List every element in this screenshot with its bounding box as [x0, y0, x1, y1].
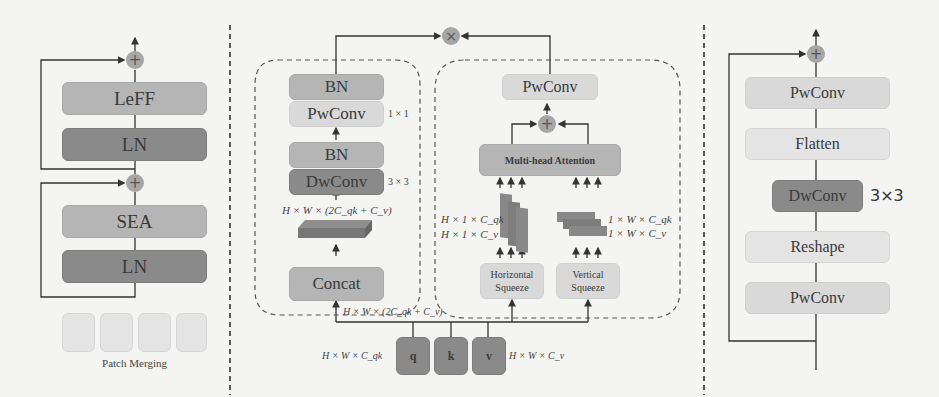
flatten-block: Flatten: [745, 128, 890, 160]
vertical-squeeze-block: Vertical Squeeze: [556, 263, 620, 299]
v-dim-v-label: 1 × W × C_v: [608, 227, 666, 239]
feature-dim-label: H × W × (2C_qk + C_v): [282, 204, 392, 216]
add-operator-icon: +: [807, 45, 825, 63]
v-block: v: [472, 337, 506, 375]
horizontal-squeeze-block: Horizontal Squeeze: [480, 263, 544, 299]
patch-square: [62, 313, 95, 352]
patch-square: [176, 313, 207, 352]
q-block: q: [396, 337, 430, 375]
leff-block: LeFF: [62, 82, 207, 115]
concat-block: Concat: [289, 267, 384, 301]
ln-block-bottom: LN: [62, 250, 207, 283]
v-dim-qk-label: 1 × W × C_qk: [608, 213, 672, 225]
dwconv-block: DwConv: [772, 180, 863, 212]
add-operator-icon: +: [126, 51, 144, 69]
v-dim-label: H × W × C_v: [509, 350, 564, 361]
pwconv-block-top: PwConv: [745, 77, 890, 109]
patch-square: [100, 313, 133, 352]
multiply-operator-icon: ×: [442, 27, 460, 45]
add-operator-icon: +: [538, 115, 556, 133]
kernel-label-3x3: 3 × 3: [388, 176, 409, 187]
pwconv-block: PwConv: [289, 101, 384, 127]
patch-merging-label: Patch Merging: [62, 357, 207, 369]
bn-block-top: BN: [289, 74, 384, 100]
patch-square: [138, 313, 171, 352]
ln-block-top: LN: [62, 128, 207, 161]
kernel-label-3x3: 3×3: [870, 186, 904, 205]
pwconv-attention-block: PwConv: [502, 74, 598, 100]
input-dim-label: H × W × (2C_qk + C_v): [343, 306, 443, 317]
sea-block: SEA: [62, 205, 207, 238]
h-dim-v-label: H × 1 × C_v: [441, 228, 498, 240]
add-operator-icon: +: [126, 174, 144, 192]
reshape-block: Reshape: [745, 231, 890, 263]
pwconv-block-bottom: PwConv: [745, 282, 890, 314]
kernel-label-1x1: 1 × 1: [388, 108, 409, 119]
bn-block-bottom: BN: [289, 142, 384, 168]
k-block: k: [434, 337, 468, 375]
h-dim-qk-label: H × 1 × C_qk: [441, 213, 504, 225]
multi-head-attention-block: Multi-head Attention: [479, 144, 621, 176]
dwconv-block: DwConv: [289, 169, 384, 195]
q-dim-label: H × W × C_qk: [322, 350, 382, 361]
